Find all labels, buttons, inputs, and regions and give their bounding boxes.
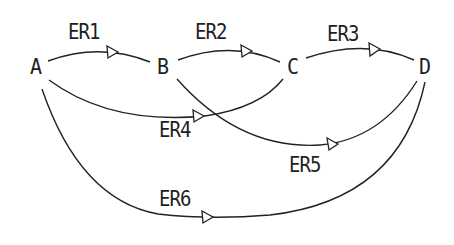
edge-er2 xyxy=(178,50,280,62)
edge-label-er2: ER2 xyxy=(195,21,226,42)
edge-label-er1: ER1 xyxy=(68,21,99,42)
node-b: B xyxy=(157,55,168,77)
arrowhead-er6-icon xyxy=(202,211,213,223)
edge-er3 xyxy=(306,48,414,60)
arrowhead-er3-icon xyxy=(369,43,380,56)
edge-label-er6: ER6 xyxy=(159,188,190,209)
edge-er6 xyxy=(42,82,425,217)
arrowhead-er2-icon xyxy=(241,45,252,57)
arrowhead-er1-icon xyxy=(107,46,118,58)
arrowhead-er4-icon xyxy=(193,110,204,122)
edge-er1 xyxy=(48,52,150,62)
edge-er4 xyxy=(49,79,283,118)
node-c: C xyxy=(287,55,298,77)
graph-canvas: A B C D ER1 ER2 ER3 ER4 ER5 ER6 xyxy=(0,0,454,245)
node-a: A xyxy=(30,55,41,77)
edge-er5 xyxy=(177,79,417,145)
edge-label-er3: ER3 xyxy=(327,23,358,44)
arrowhead-er5-icon xyxy=(327,138,338,150)
edge-label-er5: ER5 xyxy=(289,154,320,175)
node-d: D xyxy=(419,55,430,77)
edge-label-er4: ER4 xyxy=(159,119,190,140)
